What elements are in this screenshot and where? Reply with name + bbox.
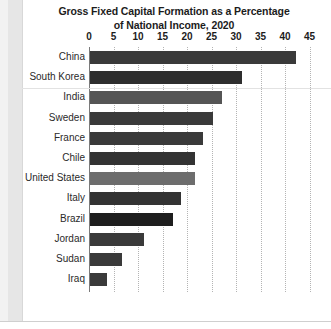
bar-row: Sweden	[89, 112, 310, 125]
bar-row: France	[89, 132, 310, 145]
x-axis-tick-label: 10	[132, 31, 143, 42]
plot-area: 051015202530354045ChinaSouth KoreaIndiaS…	[89, 47, 310, 292]
category-label: United States	[25, 171, 85, 185]
bar	[90, 233, 144, 246]
category-label: France	[54, 131, 85, 145]
bar	[90, 172, 195, 185]
scan-artifact-line	[22, 88, 331, 89]
bar	[90, 253, 122, 266]
bar	[90, 91, 222, 104]
bar	[90, 112, 213, 125]
page-bottom-edge	[0, 321, 331, 329]
bar-row: United States	[89, 172, 310, 185]
chart-title: Gross Fixed Capital Formation as a Perce…	[24, 5, 324, 32]
bar-row: Italy	[89, 192, 310, 205]
bar-row: China	[89, 51, 310, 64]
bar	[90, 192, 181, 205]
bar-row: Iraq	[89, 273, 310, 286]
bar	[90, 132, 203, 145]
bar	[90, 71, 242, 84]
x-axis-tick-label: 30	[230, 31, 241, 42]
category-label: Sudan	[56, 252, 85, 266]
x-axis-tick-label: 45	[304, 31, 315, 42]
chart-title-line-2: of National Income, 2020	[24, 19, 324, 33]
bar-row: Sudan	[89, 253, 310, 266]
x-axis-tick-label: 15	[157, 31, 168, 42]
x-axis-tick-label: 0	[86, 31, 92, 42]
category-label: Sweden	[49, 111, 85, 125]
bar	[90, 51, 296, 64]
bar-row: India	[89, 91, 310, 104]
chart-page: Gross Fixed Capital Formation as a Perce…	[0, 0, 331, 329]
bar-row: Jordan	[89, 233, 310, 246]
category-label: Chile	[62, 151, 85, 165]
category-label: Italy	[67, 191, 85, 205]
x-axis-tick-label: 40	[279, 31, 290, 42]
x-axis-tick-label: 35	[255, 31, 266, 42]
category-label: Iraq	[68, 272, 85, 286]
category-label: Jordan	[54, 232, 85, 246]
chart-title-line-1: Gross Fixed Capital Formation as a Perce…	[24, 5, 324, 19]
x-axis-tick-label: 20	[181, 31, 192, 42]
page-margin-inner	[0, 0, 8, 329]
bar	[90, 273, 107, 286]
bar-row: Chile	[89, 152, 310, 165]
bar-row: Brazil	[89, 213, 310, 226]
page-margin-strip	[0, 0, 23, 329]
x-axis-tick-label: 25	[206, 31, 217, 42]
category-label: China	[59, 50, 85, 64]
category-label: Brazil	[60, 212, 85, 226]
bar-row: South Korea	[89, 71, 310, 84]
category-label: South Korea	[29, 70, 85, 84]
bar	[90, 213, 173, 226]
x-axis-tick-label: 5	[111, 31, 117, 42]
category-label: India	[63, 90, 85, 104]
bar	[90, 152, 195, 165]
